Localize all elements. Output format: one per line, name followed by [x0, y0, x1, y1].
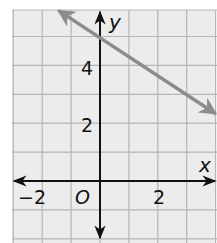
- y-axis-label: y: [108, 10, 122, 34]
- x-tick-label-2: 2: [153, 186, 165, 208]
- x-tick-label-neg2: −2: [18, 186, 46, 208]
- x-axis-label: x: [198, 153, 211, 177]
- y-tick-label-2: 2: [81, 114, 93, 136]
- origin-label: O: [75, 186, 90, 208]
- y-tick-label-4: 4: [81, 57, 93, 79]
- coordinate-graph: y x O −2 2 2 4: [0, 0, 217, 243]
